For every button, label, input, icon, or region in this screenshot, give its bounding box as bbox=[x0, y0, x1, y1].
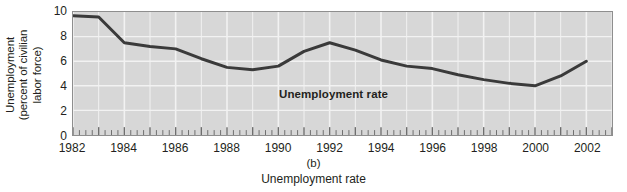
x-axis-tick-2002: 2002 bbox=[574, 142, 601, 155]
y-axis-title-line-3: labor force) bbox=[31, 47, 45, 104]
y-axis-title: Unemployment (percent of civilian labor … bbox=[0, 0, 48, 150]
x-axis-tick-1984: 1984 bbox=[110, 142, 137, 155]
y-axis-tick-4: 4 bbox=[60, 80, 67, 92]
x-axis-tick-1994: 1994 bbox=[368, 142, 395, 155]
x-axis-tick-1996: 1996 bbox=[419, 142, 446, 155]
plot-svg bbox=[73, 12, 612, 135]
x-axis-tick-1986: 1986 bbox=[162, 142, 189, 155]
x-axis-tick-1988: 1988 bbox=[213, 142, 240, 155]
y-axis-tick-8: 8 bbox=[60, 30, 67, 42]
y-axis-title-line-1: Unemployment bbox=[4, 37, 18, 113]
y-axis-tick-labels: 0246810 bbox=[46, 0, 70, 145]
x-axis-tick-1992: 1992 bbox=[316, 142, 343, 155]
vertical-gridlines bbox=[73, 12, 612, 135]
y-axis-title-line-2: (percent of civilian bbox=[17, 30, 31, 121]
x-axis-tick-1990: 1990 bbox=[265, 142, 292, 155]
unemployment-rate-figure: Unemployment (percent of civilian labor … bbox=[0, 0, 627, 192]
plot-area: Unemployment rate bbox=[72, 11, 613, 136]
series-annotation-label: Unemployment rate bbox=[279, 88, 388, 100]
x-axis-tick-1998: 1998 bbox=[471, 142, 498, 155]
x-axis-title: Unemployment rate bbox=[0, 172, 627, 186]
panel-letter-caption: (b) bbox=[0, 157, 627, 170]
x-axis-tick-1982: 1982 bbox=[59, 142, 86, 155]
y-axis-tick-2: 2 bbox=[60, 105, 67, 117]
x-axis-tick-labels: 1982198419861988199019921994199619982000… bbox=[72, 142, 613, 158]
y-axis-tick-6: 6 bbox=[60, 55, 67, 67]
x-axis-tick-2000: 2000 bbox=[522, 142, 549, 155]
x-axis-minor-ticks bbox=[73, 127, 612, 135]
y-axis-title-text: Unemployment (percent of civilian labor … bbox=[2, 8, 46, 142]
y-axis-tick-10: 10 bbox=[54, 5, 67, 17]
